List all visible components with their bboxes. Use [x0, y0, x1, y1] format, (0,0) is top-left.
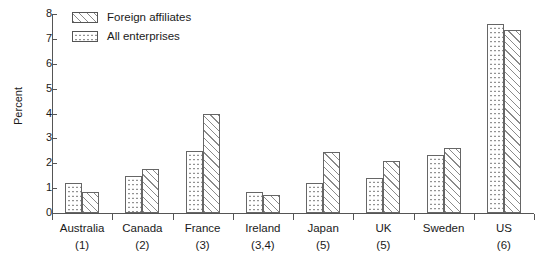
x-axis-tick — [474, 214, 475, 220]
x-axis-tick — [534, 214, 535, 220]
x-axis-tick — [52, 214, 53, 220]
bar-australia-foreign-affiliates — [82, 192, 99, 213]
y-axis-tick-label-wrap: 8 — [0, 8, 52, 19]
legend-label-foreign-affiliates: Foreign affiliates — [107, 11, 191, 23]
x-axis-category-label: France — [173, 222, 233, 235]
x-axis-category-label: UK — [353, 222, 413, 235]
bar-us-foreign-affiliates — [504, 30, 521, 213]
y-axis-tick-label-wrap: 4 — [0, 108, 52, 119]
x-axis-tick — [414, 214, 415, 220]
y-axis-tick — [52, 64, 57, 65]
bar-ireland-foreign-affiliates — [263, 195, 280, 213]
y-axis-tick-label-wrap: 2 — [0, 157, 52, 168]
x-axis-tick — [233, 214, 234, 220]
legend-item-foreign-affiliates: Foreign affiliates — [72, 9, 191, 25]
legend-label-all-enterprises: All enterprises — [107, 30, 180, 42]
bar-sweden-all-enterprises — [427, 155, 444, 213]
y-axis-tick-label-wrap: 3 — [0, 132, 52, 143]
x-axis-tick — [353, 214, 354, 220]
bar-uk-all-enterprises — [366, 178, 383, 213]
x-axis-category-footnote: (3) — [173, 239, 233, 252]
x-axis-category-label: US — [474, 222, 534, 235]
y-axis-tick-label: 7 — [36, 33, 52, 44]
y-axis-tick-label: 1 — [36, 182, 52, 193]
legend-swatch-hatch-icon — [72, 12, 98, 23]
y-axis-tick-label: 0 — [36, 207, 52, 218]
y-axis-tick-label: 2 — [36, 157, 52, 168]
y-axis-tick — [52, 188, 57, 189]
legend-swatch-dots-icon — [72, 31, 98, 42]
x-axis-tick — [112, 214, 113, 220]
bar-france-all-enterprises — [186, 151, 203, 213]
bar-france-foreign-affiliates — [203, 114, 220, 214]
x-axis-tick — [293, 214, 294, 220]
bar-japan-all-enterprises — [306, 183, 323, 213]
y-axis-tick — [52, 14, 57, 15]
bar-sweden-foreign-affiliates — [444, 148, 461, 213]
y-axis-tick — [52, 39, 57, 40]
y-axis-tick-label-wrap: 7 — [0, 33, 52, 44]
y-axis-tick-label: 6 — [36, 58, 52, 69]
x-axis-category-label: Ireland — [233, 222, 293, 235]
x-axis-category-footnote: (2) — [112, 239, 172, 252]
bar-australia-all-enterprises — [65, 183, 82, 213]
x-axis-category-footnote: (6) — [474, 239, 534, 252]
legend-item-all-enterprises: All enterprises — [72, 28, 191, 44]
y-axis-tick — [52, 89, 57, 90]
bar-us-all-enterprises — [487, 24, 504, 213]
y-axis-tick — [52, 114, 57, 115]
bar-japan-foreign-affiliates — [323, 152, 340, 213]
y-axis-tick-label-wrap: 6 — [0, 58, 52, 69]
x-axis-category-footnote: (1) — [52, 239, 112, 252]
x-axis-category-footnote: (5) — [293, 239, 353, 252]
x-axis-category-label: Australia — [52, 222, 112, 235]
bar-chart: Percent 012345678 Foreign affiliates All… — [0, 0, 556, 269]
y-axis-tick-label-wrap: 0 — [0, 207, 52, 218]
x-axis-category-label: Canada — [112, 222, 172, 235]
y-axis-tick-label: 8 — [36, 8, 52, 19]
x-axis-category-label: Sweden — [414, 222, 474, 235]
bar-ireland-all-enterprises — [246, 192, 263, 213]
y-axis-tick — [52, 163, 57, 164]
y-axis-tick — [52, 138, 57, 139]
y-axis-tick-label-wrap: 1 — [0, 182, 52, 193]
x-axis-category-label: Japan — [293, 222, 353, 235]
y-axis-tick-label: 4 — [36, 108, 52, 119]
bar-canada-foreign-affiliates — [142, 169, 159, 213]
x-axis-category-footnote: (5) — [353, 239, 413, 252]
bar-uk-foreign-affiliates — [383, 161, 400, 213]
chart-legend: Foreign affiliates All enterprises — [72, 9, 191, 47]
y-axis-tick-label: 3 — [36, 132, 52, 143]
bar-canada-all-enterprises — [125, 176, 142, 213]
x-axis-category-footnote: (3,4) — [233, 239, 293, 252]
x-axis-tick — [173, 214, 174, 220]
y-axis-tick-label: 5 — [36, 83, 52, 94]
y-axis-tick-label-wrap: 5 — [0, 83, 52, 94]
